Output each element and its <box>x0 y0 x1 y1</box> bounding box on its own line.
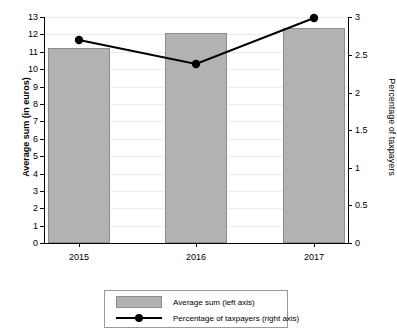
percentage-line <box>79 18 314 64</box>
legend-swatch-key <box>114 295 166 309</box>
legend-bar-swatch <box>116 296 162 308</box>
legend-item-average-sum: Average sum (left axis) <box>105 294 289 310</box>
legend-label-percentage: Percentage of taxpayers (right axis) <box>173 314 299 323</box>
legend-line-marker-icon <box>135 314 143 322</box>
data-point-2016 <box>192 60 200 68</box>
data-point-2015 <box>75 36 83 44</box>
data-point-2017 <box>310 14 318 22</box>
legend: Average sum (left axis) Percentage of ta… <box>104 290 288 328</box>
legend-item-percentage: Percentage of taxpayers (right axis) <box>105 310 289 326</box>
legend-line-key <box>114 311 166 325</box>
legend-label-average-sum: Average sum (left axis) <box>173 298 255 307</box>
